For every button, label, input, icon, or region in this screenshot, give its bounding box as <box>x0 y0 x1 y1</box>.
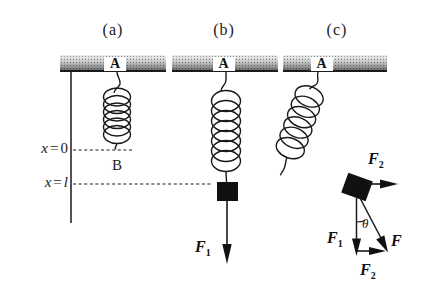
axis-xl-val: l <box>64 174 68 190</box>
force-arrow-f2-bottom-c <box>357 247 386 255</box>
axis-x0-val: 0 <box>61 140 69 156</box>
panel-label-a: (a) <box>95 21 131 39</box>
force-f2-bottom-c-sub: 2 <box>371 270 376 281</box>
force-f-c-base: F <box>391 232 402 249</box>
anchor-label-b: A <box>213 57 235 71</box>
force-f1-b-base: F <box>195 238 206 255</box>
angle-label-c: θ <box>362 216 368 232</box>
mass-c <box>341 173 373 202</box>
spring-b <box>212 72 241 182</box>
force-f2-top-c-sub: 2 <box>379 159 384 170</box>
force-f1-c-sub: 1 <box>338 238 343 249</box>
anchor-label-c: A <box>311 57 333 71</box>
spring-c <box>267 67 332 180</box>
axis-label-x0: x=0 <box>18 140 68 157</box>
panel-label-c: (c) <box>319 21 355 39</box>
figure-canvas: (a) (b) (c) A A A x=0 x=l B F1 F2 F1 F F… <box>0 0 428 297</box>
axis-x0-eq: = <box>48 140 60 156</box>
axis-xl-eq: = <box>51 174 63 190</box>
ceiling-bar-c <box>283 55 387 72</box>
force-label-f2-bottom-c: F2 <box>360 261 376 279</box>
force-f2-top-c-base: F <box>368 150 379 167</box>
panel-label-b: (b) <box>206 21 242 39</box>
anchor-label-a: A <box>104 57 126 71</box>
spring-end-label-b: B <box>107 157 127 174</box>
spring-a <box>104 72 131 150</box>
force-arrow-f2-right-c <box>368 180 398 189</box>
force-arrow-f1-c <box>352 198 361 256</box>
force-f2-bottom-c-base: F <box>360 261 371 278</box>
force-label-f1-c: F1 <box>327 229 343 247</box>
force-label-f-c: F <box>391 232 402 250</box>
force-f1-b-sub: 1 <box>206 247 211 258</box>
mass-b <box>217 182 238 201</box>
force-f1-c-base: F <box>327 229 338 246</box>
force-arrow-f1-b <box>222 201 231 264</box>
force-label-f2-top-c: F2 <box>368 150 384 168</box>
axis-label-xl: x=l <box>18 174 68 191</box>
force-label-f1-b: F1 <box>195 238 211 256</box>
